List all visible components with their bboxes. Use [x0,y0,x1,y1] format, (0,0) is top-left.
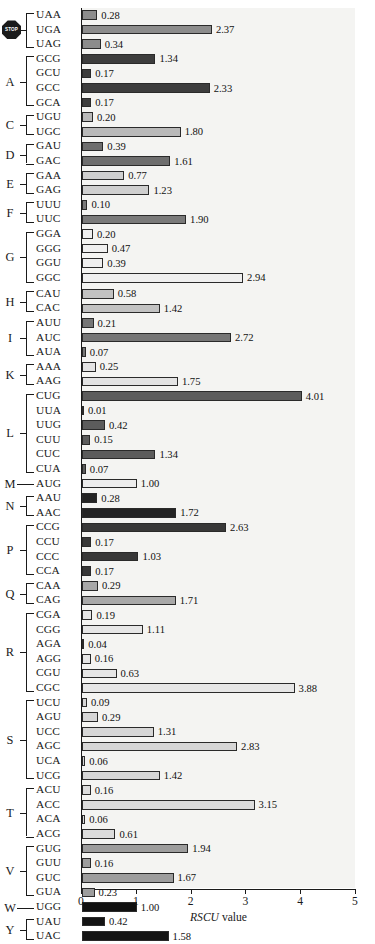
codon-label: ACC [36,797,78,812]
codon-label: CGC [36,680,78,695]
codon-bar [82,98,91,108]
codon-label: GCA [36,95,78,110]
amino-acid-letter: Q [2,587,18,601]
bar-value-label: 1.80 [185,124,204,139]
codon-row: AGU0.29 [0,710,375,725]
x-axis-tick-label: 1 [126,895,146,909]
codon-row: CGG1.11 [0,623,375,638]
x-axis-tick [300,889,301,894]
codon-bar [82,318,94,328]
codon-row: GUU0.16 [0,856,375,871]
bar-value-label: 0.28 [101,8,120,23]
group-bracket-stem [20,257,26,258]
group-bracket-stem [20,125,26,126]
codon-label: UAA [36,7,78,22]
group-bracket-top [26,202,34,203]
bar-value-label: 0.42 [109,418,128,433]
codon-row: UUC1.90 [0,212,375,227]
codon-bar [82,931,169,941]
codon-row: CAC1.42 [0,301,375,316]
group-bracket-bottom [26,311,34,312]
codon-bar [82,625,143,635]
codon-label: AUA [36,344,78,359]
amino-acid-letter: P [2,543,18,557]
amino-acid-letter: Y [2,923,18,937]
group-bracket-top [26,394,34,395]
group-bracket-spine [26,13,27,47]
x-axis-tick-label: 2 [181,895,201,909]
group-bracket-bottom [26,472,34,473]
bar-value-label: 1.42 [164,768,183,783]
codon-bar [82,171,124,181]
group-bracket-stem [20,338,26,339]
group-bracket-top [26,13,34,14]
bar-value-label: 2.33 [214,81,233,96]
codon-bar [82,258,103,268]
amino-acid-letter: N [2,499,18,513]
codon-bar [82,639,84,649]
codon-row: GGA0.20 [0,227,375,242]
codon-bar [82,873,174,883]
codon-bar [82,669,117,679]
codon-row: UAG0.34 [0,37,375,52]
group-bracket-spine [26,291,27,311]
codon-bar [82,742,237,752]
codon-bar [82,39,101,49]
codon-row: ACG0.61 [0,827,375,842]
amino-acid-letter: V [2,864,18,878]
bar-value-label: 0.04 [88,637,107,652]
codon-label: UAU [36,914,78,929]
codon-label: GGC [36,270,78,285]
bar-value-label: 2.94 [247,270,266,285]
codon-row: UGA2.37 [0,23,375,38]
group-bracket-bottom [26,515,34,516]
group-bracket-bottom [26,574,34,575]
codon-label: UGA [36,22,78,37]
codon-label: ACG [36,826,78,841]
bar-value-label: 0.17 [95,95,114,110]
codon-bar [82,273,243,283]
codon-label: UUU [36,197,78,212]
group-bracket-top [26,788,34,789]
codon-label: AAG [36,373,78,388]
codon-row: GAA0.77 [0,169,375,184]
codon-bar [82,304,160,314]
codon-label: CGU [36,665,78,680]
group-bracket-bottom [26,939,34,940]
codon-bar [82,815,85,825]
bar-value-label: 1.61 [174,154,193,169]
codon-label: CAU [36,286,78,301]
bar-value-label: 0.21 [98,316,117,331]
codon-label: GCU [36,65,78,80]
codon-label: CCC [36,549,78,564]
codon-bar [82,844,188,854]
codon-label: UCC [36,724,78,739]
codon-bar [82,727,154,737]
codon-bar [82,537,91,547]
group-bracket-bottom [26,222,34,223]
group-bracket-spine [26,232,27,282]
codon-bar [82,69,91,79]
codon-row: UCA0.06 [0,754,375,769]
bar-value-label: 0.10 [91,197,110,212]
group-bracket-spine [26,788,27,837]
bar-value-label: 0.16 [95,783,114,798]
codon-bar [82,362,96,372]
codon-label: CUC [36,446,78,461]
codon-label: CGA [36,607,78,622]
bar-value-label: 0.20 [97,110,116,125]
codon-bar [82,112,93,122]
group-bracket-stem [20,375,26,376]
codon-label: GUU [36,855,78,870]
bar-value-label: 0.77 [128,168,147,183]
codon-bar [82,479,137,489]
amino-acid-letter: D [2,148,18,162]
codon-bar [82,698,87,708]
group-bracket-stem [20,302,26,303]
codon-label: CCU [36,534,78,549]
group-bracket-stem [20,740,26,741]
codon-label: AUU [36,315,78,330]
codon-row: AUU0.21 [0,316,375,331]
codon-row: UUG0.42 [0,418,375,433]
codon-row: GAG1.23 [0,183,375,198]
